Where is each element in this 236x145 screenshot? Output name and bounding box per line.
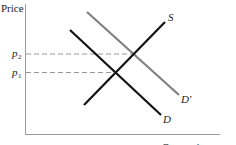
x-axis-label: Quantity bbox=[162, 141, 213, 145]
p1-label: p 1 bbox=[11, 66, 22, 80]
demand-label: D bbox=[162, 113, 171, 125]
svg-text:p: p bbox=[11, 47, 18, 59]
demand-shifted-label: D′ bbox=[180, 93, 192, 105]
svg-text:p: p bbox=[11, 66, 18, 78]
supply-demand-diagram: Price Quantity p 2 p 1 D′ D S bbox=[0, 0, 236, 145]
supply-curve bbox=[84, 22, 165, 105]
svg-text:2: 2 bbox=[18, 53, 22, 61]
svg-text:1: 1 bbox=[18, 72, 22, 80]
y-axis-label: Price bbox=[1, 2, 24, 14]
p2-label: p 2 bbox=[11, 47, 22, 61]
supply-label: S bbox=[168, 11, 174, 23]
